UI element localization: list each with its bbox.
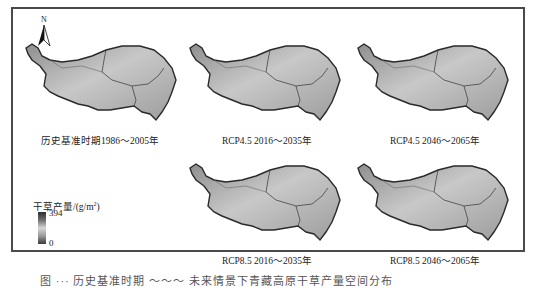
legend-title-text: 干草产量/(g/m: [33, 202, 94, 212]
plateau-map: [186, 160, 346, 242]
panel-label-historical: 历史基准时期1986～2005年: [15, 133, 185, 147]
map-panel-rcp85-2016: [186, 160, 346, 242]
plateau-map: [354, 40, 514, 122]
panel-label-rcp45-2016: RCP4.5 2016～2035年: [182, 133, 352, 147]
map-panel-rcp45-2016: [186, 40, 346, 122]
legend-min-value: 0: [49, 238, 54, 248]
svg-text:N: N: [41, 15, 47, 24]
panel-label-rcp85-2016: RCP8.5 2016～2035年: [182, 253, 352, 267]
legend-title-close: ): [97, 202, 100, 212]
map-panel-rcp45-2046: [354, 40, 514, 122]
legend-title: 干草产量/(g/m2): [33, 199, 100, 213]
plateau-map: [354, 160, 514, 242]
plateau-map: [22, 40, 182, 122]
panel-label-rcp45-2046: RCP4.5 2046～2065年: [350, 133, 520, 147]
map-panel-historical: [22, 40, 182, 122]
legend-color-bar: [38, 212, 46, 244]
figure-caption: 图 ··· 历史基准时期 ～～～ 未来情景下青藏高原干草产量空间分布: [40, 272, 393, 288]
legend-max-value: 394: [49, 208, 63, 218]
panel-label-rcp85-2046: RCP8.5 2046～2065年: [350, 253, 520, 267]
plateau-map: [186, 40, 346, 122]
map-panel-rcp85-2046: [354, 160, 514, 242]
